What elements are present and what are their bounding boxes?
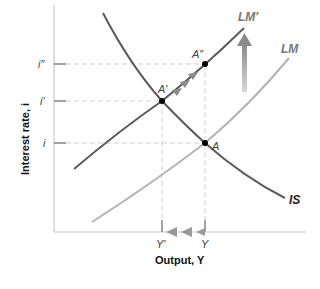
point-a-double-prime [202,61,208,67]
movement-arrows-icon [172,72,198,96]
tick-label-y-prime: Y′ [156,238,166,250]
x-ticks [162,220,205,232]
tick-label-i-double-prime: i″ [38,58,45,70]
guide-lines [66,64,205,220]
y-axis-title: Interest rate, i [19,103,31,175]
x-axis-title: Output, Y [155,254,205,266]
point-a [202,140,208,146]
is-lm-diagram: A A′ A″ LM′ LM IS i″ i′ i Y′ Y Output, Y… [0,0,320,289]
tick-label-i: i [43,137,46,149]
tick-label-i-prime: i′ [40,95,45,107]
label-a-double-prime: A″ [191,48,204,60]
is-curve [103,13,285,198]
label-is: IS [289,193,300,207]
label-lm-prime: LM′ [238,10,259,24]
lm-curve [92,58,289,222]
shift-up-arrow-icon [237,33,252,92]
output-decline-arrows-icon [166,227,205,237]
label-lm: LM [281,42,299,56]
y-ticks [54,64,66,143]
label-a-prime: A′ [157,83,168,95]
tick-label-y: Y [201,238,209,250]
point-a-prime [159,98,165,104]
label-a: A [211,140,219,152]
